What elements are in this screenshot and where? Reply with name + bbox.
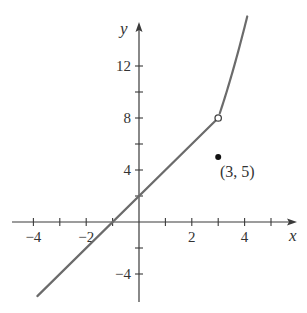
x-axis-label: x bbox=[288, 226, 297, 245]
axes bbox=[12, 22, 297, 302]
function-graph: −4−224−44812 x y (3, 5) bbox=[0, 0, 307, 313]
y-axis-label: y bbox=[118, 19, 128, 38]
open-point bbox=[215, 115, 221, 121]
y-tick-label: 4 bbox=[124, 162, 132, 178]
x-tick-label: −4 bbox=[25, 229, 41, 245]
x-tick-label: 4 bbox=[241, 229, 249, 245]
quadratic-piece-curve bbox=[220, 16, 247, 113]
x-tick-label: 2 bbox=[188, 229, 196, 245]
y-tick-label: −4 bbox=[115, 266, 131, 282]
point-label: (3, 5) bbox=[220, 163, 255, 181]
y-tick-label: 8 bbox=[124, 110, 132, 126]
filled-point bbox=[215, 154, 221, 160]
y-tick-label: 12 bbox=[116, 58, 131, 74]
